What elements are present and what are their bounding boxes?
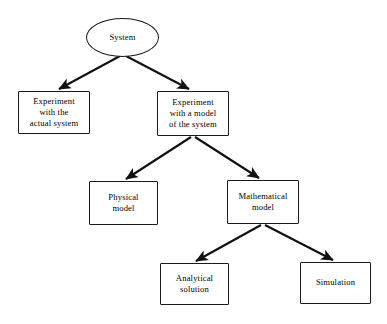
node-analytical-solution-label: Analytical solution — [174, 273, 215, 295]
node-system[interactable]: System — [86, 18, 159, 57]
edge-mathematical-model-to-simulation — [265, 225, 333, 260]
node-system-label: System — [107, 32, 137, 43]
edge-experiment-model-to-physical-model — [126, 137, 191, 179]
node-physical-model[interactable]: Physical model — [89, 181, 158, 225]
edge-system-to-experiment-actual — [59, 56, 120, 89]
edge-mathematical-model-to-analytical-solution — [196, 225, 261, 261]
node-analytical-solution[interactable]: Analytical solution — [160, 263, 229, 305]
node-simulation[interactable]: Simulation — [300, 262, 371, 304]
diagram-canvas: System Experiment with the actual system… — [0, 0, 387, 324]
node-simulation-label: Simulation — [314, 277, 357, 288]
node-experiment-with-model[interactable]: Experiment with a model of the system — [157, 91, 229, 136]
node-experiment-with-actual-system-label: Experiment with the actual system — [28, 96, 81, 130]
node-experiment-with-model-label: Experiment with a model of the system — [167, 97, 219, 131]
edge-experiment-model-to-mathematical-model — [195, 137, 259, 178]
node-mathematical-model[interactable]: Mathematical model — [227, 180, 299, 224]
node-experiment-with-actual-system[interactable]: Experiment with the actual system — [18, 91, 90, 134]
node-physical-model-label: Physical model — [106, 192, 140, 214]
edge-system-to-experiment-model — [126, 56, 189, 89]
node-mathematical-model-label: Mathematical model — [236, 191, 289, 213]
